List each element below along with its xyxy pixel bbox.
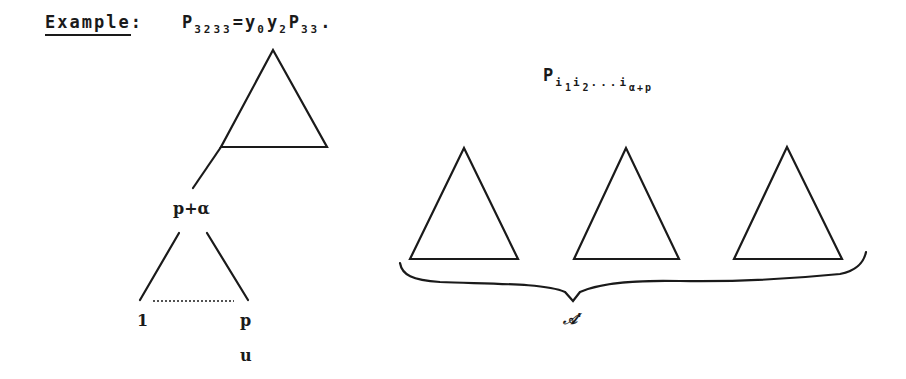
seq-p: P bbox=[543, 65, 555, 85]
tree-edge bbox=[193, 147, 221, 188]
example-formula: P3233=y0y2P33. bbox=[182, 14, 333, 31]
leaf-label-1: 1 bbox=[137, 313, 148, 329]
subtree-triangle-2 bbox=[574, 148, 679, 259]
formula-y2-subscript: 2 bbox=[279, 23, 289, 36]
seq-i2: i bbox=[573, 76, 583, 89]
brace-label-script-a: 𝒜' bbox=[563, 312, 582, 327]
formula-equals: = bbox=[233, 12, 245, 32]
diagram-canvas bbox=[0, 0, 906, 379]
formula-p2: P bbox=[289, 12, 301, 32]
top-subtree-triangle bbox=[221, 50, 327, 147]
formula-period: . bbox=[320, 12, 332, 32]
seq-ilast-subscript: α+p bbox=[629, 82, 653, 93]
subtree-sequence-formula: Pi1i2...iα+p bbox=[543, 67, 653, 84]
label-u: u bbox=[240, 348, 252, 364]
formula-p2-subscript: 33 bbox=[301, 23, 320, 36]
example-colon: : bbox=[131, 12, 143, 32]
formula-y2: y bbox=[267, 12, 279, 32]
subtree-triangle-1 bbox=[410, 148, 518, 259]
example-heading: Example: bbox=[45, 14, 143, 31]
right-branch-line bbox=[207, 233, 248, 300]
left-branch-line bbox=[140, 233, 179, 300]
leaf-label-p: p bbox=[240, 313, 251, 329]
seq-i2-subscript: 2 bbox=[583, 82, 591, 93]
formula-p1-subscript: 3233 bbox=[194, 23, 233, 36]
seq-dots: ... bbox=[591, 76, 620, 89]
seq-i1-subscript: 1 bbox=[565, 82, 573, 93]
node-label-p-plus-alpha: p+α bbox=[173, 201, 210, 217]
formula-y0: y bbox=[245, 12, 257, 32]
seq-ilast: i bbox=[619, 76, 629, 89]
seq-i1: i bbox=[555, 76, 565, 89]
formula-p1: P bbox=[182, 12, 194, 32]
formula-y0-subscript: 0 bbox=[257, 23, 267, 36]
subtree-triangle-3 bbox=[734, 147, 842, 259]
example-label: Example bbox=[45, 12, 131, 36]
